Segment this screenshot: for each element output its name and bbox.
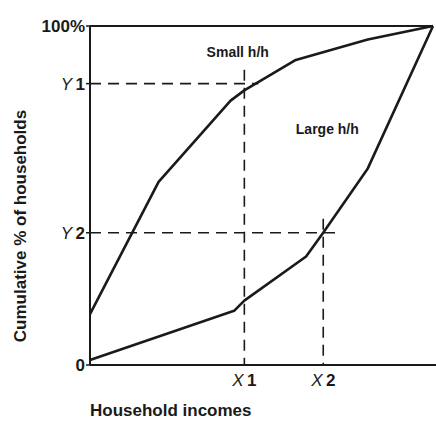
series-label: Small h/h [207,44,269,60]
guide-lines [90,70,337,365]
y-axis-title: Cumulative % of households [11,110,30,342]
tick-label: X 2 [310,371,335,390]
series-lines [90,26,433,360]
tick-label: Y 1 [61,75,85,94]
series-labels: Small h/hLarge h/h [207,44,359,138]
tick-label: X 1 [231,371,256,390]
series-line-large-h-h [90,26,433,360]
series-line-small-h-h [90,26,433,314]
lorenz-chart: 100%Y 1Y 20 X 1X 2 Small h/hLarge h/h Ho… [0,0,436,435]
y-tick-labels: 100%Y 1Y 20 [42,17,90,375]
x-axis-title: Household incomes [90,401,252,420]
tick-label: Y 2 [61,224,85,243]
tick-label: 100% [42,17,85,36]
axes [90,26,436,365]
tick-label: 0 [76,356,85,375]
series-label: Large h/h [296,121,359,137]
x-tick-labels: X 1X 2 [231,371,335,390]
